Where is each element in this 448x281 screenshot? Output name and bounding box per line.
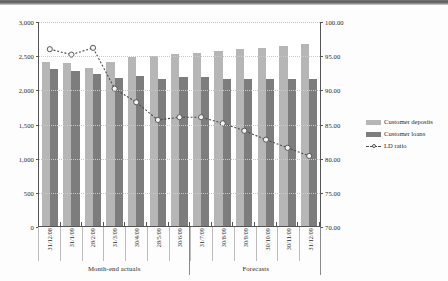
right-axis-tick-label: 90.00 — [325, 87, 340, 94]
x-axis-tick-label: 30/10/09 — [263, 228, 270, 250]
x-axis-tick-label-cell: 28/5/09 — [147, 227, 169, 261]
x-axis-tick-label-cell: 31/1/09 — [60, 227, 82, 261]
plot-area: 05001,0001,5002,0002,5003,00070.0075.008… — [38, 22, 321, 227]
left-axis-tick-label: 1,500 — [19, 121, 34, 128]
legend-swatch-deposits — [366, 120, 381, 125]
x-axis-tick-label-cell: 31/7/09 — [190, 227, 212, 261]
bar-customer-loans — [266, 79, 274, 226]
x-axis-tick-label: 30/11/09 — [285, 228, 292, 250]
legend-item-customer-deposits[interactable]: Customer deposits — [366, 119, 448, 126]
right-axis-tick-label: 100.00 — [325, 19, 344, 26]
x-axis-tick-label-cell: 30/8/09 — [212, 227, 234, 261]
right-axis-tick — [320, 56, 323, 57]
x-axis-tick-label: 31/12/08 — [45, 228, 52, 250]
x-axis-tick-label: 31/1/09 — [67, 228, 74, 247]
x-axis-tick-label: 30/8/09 — [220, 228, 227, 247]
bar-customer-loans — [93, 74, 101, 226]
left-axis-tick — [36, 56, 39, 57]
bar-customer-deposits — [85, 68, 93, 226]
right-axis-tick-label: 70.00 — [325, 224, 340, 231]
legend-item-customer-loans[interactable]: Customer loans — [366, 131, 448, 138]
x-label-divider — [82, 227, 83, 261]
x-axis-tick-label-cell: 30/11/09 — [277, 227, 299, 261]
x-axis-tick-label: 28/5/09 — [154, 228, 161, 247]
bar-customer-deposits — [63, 63, 71, 226]
x-axis-tick-label: 31/12/09 — [307, 228, 314, 250]
x-axis-tick-label: 28/2/09 — [89, 228, 96, 247]
gridline — [39, 22, 320, 23]
right-axis-tick — [320, 193, 323, 194]
x-axis-tick-label: 30/9/09 — [241, 228, 248, 247]
bar-customer-deposits — [171, 54, 179, 226]
left-axis-tick-label: 2,500 — [19, 53, 34, 60]
left-axis-tick-label: 0 — [31, 224, 34, 231]
x-axis-tick-labels: 31/12/0831/1/0928/2/0931/3/0930/4/0928/5… — [38, 227, 321, 261]
left-axis-tick — [36, 125, 39, 126]
x-axis-tick-label: 30/6/09 — [176, 228, 183, 247]
x-axis-tick-label: 30/4/09 — [132, 228, 139, 247]
left-axis-tick — [36, 193, 39, 194]
bar-customer-deposits — [128, 57, 136, 226]
left-axis-tick — [36, 90, 39, 91]
legend-swatch-loans — [366, 132, 381, 137]
x-axis-tick-label-cell: 30/4/09 — [125, 227, 147, 261]
x-axis-tick-label-cell: 31/3/09 — [103, 227, 125, 261]
bar-customer-loans — [158, 79, 166, 226]
left-axis-tick — [36, 159, 39, 160]
left-axis-tick — [36, 22, 39, 23]
right-axis-tick-label: 95.00 — [325, 53, 340, 60]
bar-customer-loans — [179, 77, 187, 226]
bar-customer-loans — [115, 78, 123, 226]
x-axis-group-labels: Month-end actualsForecasts — [38, 261, 321, 275]
left-axis-tick-label: 1,000 — [19, 155, 34, 162]
bar-customer-deposits — [279, 46, 287, 226]
x-label-divider — [234, 227, 235, 261]
x-axis-tick-label-cell: 30/10/09 — [256, 227, 278, 261]
gridline — [39, 125, 320, 126]
gridline — [39, 193, 320, 194]
legend-label-ld-ratio: LD ratio — [384, 143, 407, 150]
x-axis-tick-label-cell: 28/2/09 — [82, 227, 104, 261]
x-label-divider — [277, 227, 278, 261]
x-label-divider — [38, 227, 39, 261]
bar-customer-loans — [201, 77, 209, 226]
bar-customer-loans — [50, 69, 58, 226]
legend-item-ld-ratio[interactable]: LD ratio — [366, 143, 448, 150]
bar-customer-deposits — [150, 56, 158, 226]
right-axis-tick-label: 75.00 — [325, 189, 340, 196]
bar-customer-loans — [244, 79, 252, 226]
x-axis-group-label: Month-end actuals — [38, 261, 190, 275]
bar-customer-deposits — [193, 53, 201, 226]
x-axis-tick-label-cell: 31/12/08 — [38, 227, 60, 261]
x-label-divider — [190, 227, 191, 261]
bar-customer-deposits — [301, 44, 309, 226]
left-axis-tick-label: 3,000 — [19, 19, 34, 26]
x-axis-tick-label-cell: 31/12/09 — [299, 227, 321, 261]
x-label-divider — [125, 227, 126, 261]
chart-page: 05001,0001,5002,0002,5003,00070.0075.008… — [0, 5, 448, 281]
legend-label-deposits: Customer deposits — [384, 119, 433, 126]
bar-customer-loans — [309, 79, 317, 226]
chart-legend: Customer deposits Customer loans LD rati… — [366, 119, 448, 155]
bar-customer-loans — [136, 76, 144, 226]
right-axis-tick — [320, 125, 323, 126]
x-axis-tick-label-cell: 30/6/09 — [169, 227, 191, 261]
x-axis-tick-label: 31/7/09 — [198, 228, 205, 247]
x-axis-minor-tick — [319, 222, 320, 226]
right-axis-tick — [320, 90, 323, 91]
x-label-divider — [169, 227, 170, 261]
right-axis-tick — [320, 159, 323, 160]
gridline — [39, 159, 320, 160]
bar-customer-loans — [223, 79, 231, 226]
bar-customer-deposits — [258, 48, 266, 226]
gridline — [39, 56, 320, 57]
left-axis-tick-label: 2,000 — [19, 87, 34, 94]
x-label-divider — [60, 227, 61, 261]
bar-customer-deposits — [106, 62, 114, 226]
x-label-divider — [299, 227, 300, 261]
x-axis-tick-label-cell: 30/9/09 — [234, 227, 256, 261]
x-axis-tick-label: 31/3/09 — [111, 228, 118, 247]
right-axis-tick-label: 80.00 — [325, 155, 340, 162]
bar-customer-loans — [288, 79, 296, 226]
x-label-divider — [147, 227, 148, 261]
